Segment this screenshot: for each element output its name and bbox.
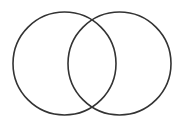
right-set-circle (68, 12, 171, 115)
venn-diagram (0, 0, 180, 127)
left-set-circle (13, 12, 116, 115)
venn-diagram-svg (0, 0, 180, 127)
